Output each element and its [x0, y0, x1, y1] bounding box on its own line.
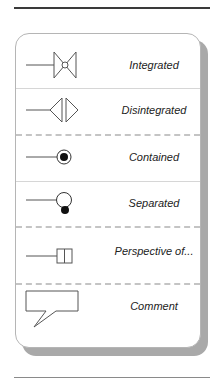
bottom-rule — [14, 377, 210, 378]
legend-item-contained: Contained — [16, 138, 200, 178]
perspective-box-icon — [24, 230, 104, 280]
legend-label-perspective: Perspective of... — [106, 244, 202, 258]
separator — [16, 134, 200, 136]
separator — [16, 181, 200, 182]
comment-callout-icon — [24, 287, 104, 343]
separator — [16, 88, 200, 89]
legend-label-disintegrated: Disintegrated — [106, 103, 202, 117]
legend-label-integrated: Integrated — [106, 58, 202, 72]
legend-label-separated: Separated — [106, 196, 202, 210]
legend-label-comment: Comment — [106, 299, 202, 313]
legend-item-perspective: Perspective of... — [16, 230, 200, 280]
legend-card: Integrated Disintegrated Contained Separ… — [15, 33, 201, 348]
disintegrated-split-triangles-icon — [24, 91, 104, 131]
separator — [16, 226, 200, 228]
integrated-bowtie-icon — [24, 46, 104, 86]
separated-circle-offset-dot-icon — [24, 184, 104, 226]
legend-item-separated: Separated — [16, 184, 200, 226]
legend-item-disintegrated: Disintegrated — [16, 91, 200, 131]
contained-circle-dot-icon — [24, 138, 104, 178]
legend-label-contained: Contained — [106, 150, 202, 164]
separator — [16, 283, 200, 285]
legend-item-comment: Comment — [16, 287, 200, 343]
top-rule — [14, 7, 210, 9]
legend-item-integrated: Integrated — [16, 46, 200, 86]
